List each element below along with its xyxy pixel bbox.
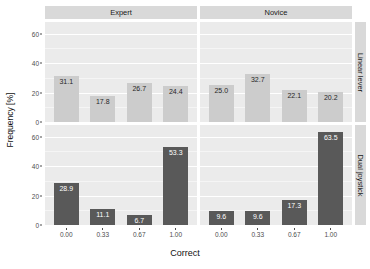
x-axis-title-label: Correct: [170, 248, 200, 258]
bar-value-label: 17.8: [96, 96, 110, 105]
panel-expert-linear-lever: 31.117.826.724.4: [45, 22, 197, 122]
bar-value-label: 24.4: [169, 86, 183, 95]
panel-novice-linear-lever: 25.032.722.120.2: [200, 22, 352, 122]
bar-value-label: 22.1: [287, 90, 301, 99]
bar: 9.6: [245, 211, 270, 225]
strip-row-linear-lever-label: Linear lever: [356, 52, 365, 91]
bar-group-expert-linear-lever: 31.117.826.724.4: [45, 22, 197, 122]
x-tick-label: 0.00: [54, 228, 79, 238]
bar: 31.1: [54, 76, 79, 122]
x-tick-label: 1.00: [163, 228, 188, 238]
bar: 26.7: [127, 83, 152, 122]
facet-grid: Expert Novice 0204060 31.117.826.724.4 2…: [18, 6, 366, 244]
bar-value-label: 20.2: [324, 92, 338, 101]
bar: 53.3: [163, 147, 188, 225]
panel-expert-dual-joystick: 28.911.16.753.3: [45, 125, 197, 225]
bar: 9.6: [209, 211, 234, 225]
bar-value-label: 31.1: [59, 76, 73, 85]
x-tick-label: 0.67: [127, 228, 152, 238]
x-tick-group-expert: 0.000.330.671.00: [45, 228, 197, 238]
x-tick-label: 0.67: [282, 228, 307, 238]
x-tick-group-novice: 0.000.330.671.00: [200, 228, 352, 238]
strip-column-expert: Expert: [45, 6, 197, 19]
strip-column-novice: Novice: [200, 6, 352, 19]
bar: 24.4: [163, 86, 188, 122]
x-tick-label: 0.00: [209, 228, 234, 238]
y-axis-linear-lever: 0204060: [18, 22, 42, 122]
bar: 17.3: [282, 200, 307, 225]
y-tick-label: 40: [32, 163, 42, 170]
bar-value-label: 9.6: [216, 211, 226, 220]
bar-value-label: 53.3: [169, 147, 183, 156]
y-axis-title: Frequency [%]: [2, 0, 18, 240]
panel-novice-dual-joystick: 9.69.617.363.5: [200, 125, 352, 225]
strip-row-dual-joystick: Dual joystick: [355, 125, 366, 225]
bar: 11.1: [90, 209, 115, 225]
strip-column-novice-label: Novice: [265, 8, 288, 17]
bar-group-expert-dual-joystick: 28.911.16.753.3: [45, 125, 197, 225]
bar-value-label: 32.7: [251, 74, 265, 83]
x-tick-label: 0.33: [90, 228, 115, 238]
bar-value-label: 63.5: [324, 132, 338, 141]
y-axis-dual-joystick: 0204060: [18, 125, 42, 225]
x-axis-title: Correct: [0, 248, 370, 258]
y-tick-label: 40: [32, 60, 42, 67]
y-tick-label: 60: [32, 30, 42, 37]
bar-value-label: 26.7: [132, 83, 146, 92]
x-tick-label: 0.33: [245, 228, 270, 238]
bar: 28.9: [54, 183, 79, 226]
bar-group-novice-dual-joystick: 9.69.617.363.5: [200, 125, 352, 225]
y-axis-title-label: Frequency [%]: [5, 93, 15, 148]
bar: 63.5: [318, 132, 343, 225]
x-axis-expert: 0.000.330.671.00: [45, 228, 197, 244]
bar-value-label: 17.3: [287, 200, 301, 209]
y-tick-label: 20: [32, 89, 42, 96]
bar: 6.7: [127, 215, 152, 225]
bar-value-label: 25.0: [214, 85, 228, 94]
y-tick-label: 60: [32, 133, 42, 140]
strip-row-dual-joystick-label: Dual joystick: [356, 154, 365, 196]
faceted-bar-chart: Frequency [%] Expert Novice 0204060 31.1…: [0, 0, 370, 269]
bar: 20.2: [318, 92, 343, 122]
bar-group-novice-linear-lever: 25.032.722.120.2: [200, 22, 352, 122]
y-tick-label: 0: [35, 222, 42, 229]
strip-row-linear-lever: Linear lever: [355, 22, 366, 122]
bar-value-label: 6.7: [134, 215, 144, 224]
y-tick-label: 20: [32, 192, 42, 199]
bar-value-label: 9.6: [253, 211, 263, 220]
bar: 32.7: [245, 74, 270, 122]
bar-value-label: 11.1: [96, 209, 109, 218]
bar: 25.0: [209, 85, 234, 122]
bar: 17.8: [90, 96, 115, 122]
x-tick-label: 1.00: [318, 228, 343, 238]
bar-value-label: 28.9: [59, 183, 73, 192]
strip-column-expert-label: Expert: [110, 8, 132, 17]
x-axis-novice: 0.000.330.671.00: [200, 228, 352, 244]
bar: 22.1: [282, 90, 307, 123]
